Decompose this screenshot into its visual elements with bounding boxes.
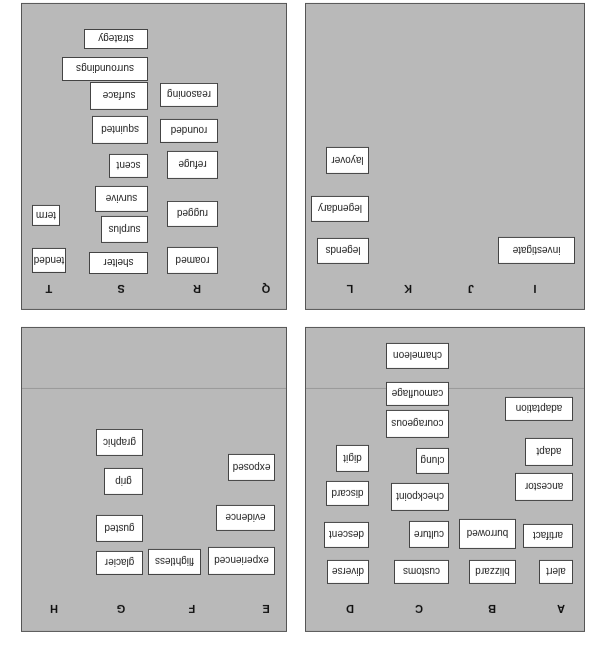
word-card[interactable]: surface (90, 82, 148, 110)
word-card[interactable]: shelter (89, 252, 148, 274)
word-card[interactable]: blizzard (469, 560, 516, 584)
word-card[interactable]: culture (409, 521, 449, 548)
column-label-h: H (44, 603, 64, 615)
word-card[interactable]: grip (104, 468, 143, 495)
panel-efgh: E F G H experienced evidence exposed fli… (21, 327, 287, 632)
word-card[interactable]: chameleon (386, 343, 449, 369)
word-card[interactable]: customs (394, 560, 449, 584)
word-card[interactable]: strategy (84, 29, 148, 49)
word-card[interactable]: surroundings (62, 57, 148, 81)
column-label-c: C (409, 603, 429, 615)
column-label-i: I (525, 283, 545, 295)
word-card[interactable]: investigate (498, 237, 575, 264)
word-card[interactable]: rounded (160, 119, 218, 143)
column-label-g: G (111, 603, 131, 615)
word-card[interactable]: clung (416, 448, 449, 474)
panel-qrst: Q R S T roamed rugged refuge rounded rea… (21, 3, 287, 310)
word-card[interactable]: discard (326, 481, 369, 506)
word-card[interactable]: scent (109, 154, 148, 178)
word-card[interactable]: exposed (228, 454, 275, 481)
column-label-k: K (398, 283, 418, 295)
word-card[interactable]: camouflage (386, 382, 449, 406)
word-card[interactable]: gusted (96, 515, 143, 542)
column-label-j: J (461, 283, 481, 295)
column-label-s: S (111, 283, 131, 295)
column-label-r: R (187, 283, 207, 295)
word-card[interactable]: rugged (167, 201, 218, 227)
word-card[interactable]: adapt (525, 438, 573, 466)
word-card[interactable]: legends (317, 238, 369, 264)
word-card[interactable]: adaptation (505, 397, 573, 421)
panel-abcd: A B C D alert artifact ancestor adapt ad… (305, 327, 585, 632)
word-card[interactable]: reasoning (160, 83, 218, 107)
word-card[interactable]: ancestor (515, 473, 573, 501)
word-card[interactable]: descent (324, 522, 369, 548)
word-card[interactable]: burrowed (459, 519, 516, 549)
column-label-l: L (340, 283, 360, 295)
word-card[interactable]: experienced (208, 547, 275, 575)
word-card[interactable]: squinted (92, 116, 148, 144)
word-card[interactable]: courageous (386, 410, 449, 438)
panel-fold-line (22, 388, 286, 389)
word-card[interactable]: alert (539, 560, 573, 584)
word-card[interactable]: graphic (96, 429, 143, 456)
panel-ijkl: I J K L investigate legends legendary la… (305, 3, 585, 310)
column-label-a: A (551, 603, 571, 615)
word-card[interactable]: survive (95, 186, 148, 212)
word-card[interactable]: layover (326, 147, 369, 174)
word-card[interactable]: digit (336, 445, 369, 472)
word-card[interactable]: evidence (216, 505, 275, 531)
word-card[interactable]: glacier (96, 551, 143, 575)
column-label-b: B (482, 603, 502, 615)
word-card[interactable]: diverse (327, 560, 369, 584)
word-card[interactable]: tended (32, 248, 66, 273)
word-card[interactable]: surplus (101, 216, 148, 243)
column-label-f: F (182, 603, 202, 615)
word-card[interactable]: artifact (523, 524, 573, 548)
word-sort-board: A B C D alert artifact ancestor adapt ad… (0, 0, 596, 647)
word-card[interactable]: roamed (167, 247, 218, 274)
word-card[interactable]: term (32, 205, 60, 226)
column-label-d: D (340, 603, 360, 615)
word-card[interactable]: refuge (167, 151, 218, 179)
word-card[interactable]: flightless (148, 549, 201, 575)
word-card[interactable]: legendary (311, 196, 369, 222)
column-label-e: E (256, 603, 276, 615)
column-label-q: Q (256, 283, 276, 295)
column-label-t: T (39, 283, 59, 295)
word-card[interactable]: checkpoint (391, 483, 449, 511)
